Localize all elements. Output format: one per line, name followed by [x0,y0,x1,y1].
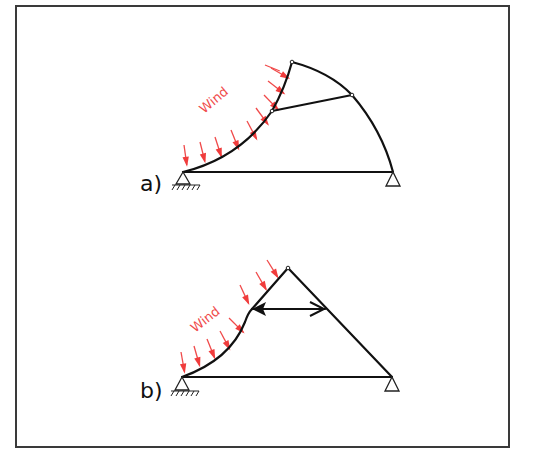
wind-arrows-a [181,65,292,167]
node-b [286,266,290,270]
node-a [290,60,294,64]
node-a [270,109,274,113]
node-a [350,93,354,97]
roller-support-b [385,377,399,391]
wind-arrows-b [178,258,282,374]
diagram-b: Wind b) [140,258,399,403]
tie-a [272,95,352,111]
wind-label-a: Wind [196,84,231,116]
windward-chord-a [183,62,292,172]
label-a: a) [140,171,162,196]
wind-label-b: Wind [188,303,223,335]
pinned-support-b [171,377,199,396]
diagram-a: Wind a) [140,60,400,196]
right-rafter-b [288,268,392,377]
label-b: b) [140,378,163,403]
pinned-support-a [172,172,200,190]
roller-support-a [386,172,400,186]
leeward-arc-a [292,62,393,172]
structural-diagram: Wind a) [0,0,538,460]
